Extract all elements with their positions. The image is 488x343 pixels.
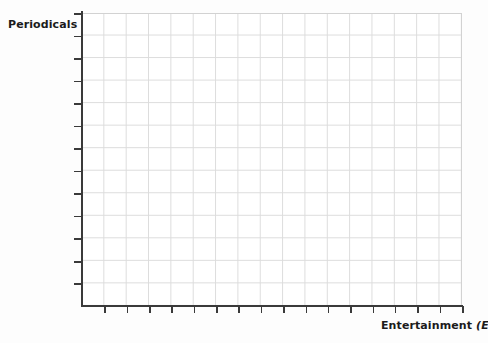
y-axis-tick: [74, 81, 82, 83]
x-axis-label-text: Entertainment: [381, 319, 472, 332]
y-axis-tick: [74, 36, 82, 38]
x-axis-tick: [127, 306, 129, 313]
y-axis-tick: [74, 13, 82, 15]
y-axis-tick: [74, 58, 82, 60]
x-axis-tick: [440, 306, 442, 313]
x-axis-tick: [261, 306, 263, 313]
y-axis-tick: [74, 261, 82, 263]
x-axis-label: Entertainment (E): [381, 320, 488, 331]
y-axis-spine: [81, 11, 83, 307]
x-axis-label-variable: (E): [476, 319, 488, 332]
x-axis-tick: [238, 306, 240, 313]
x-axis-tick: [462, 306, 464, 313]
x-axis-tick: [149, 306, 151, 313]
x-axis-tick: [350, 306, 352, 313]
graph-figure: Periodicals (P) Entertainment (E): [0, 0, 488, 343]
x-axis-tick: [216, 306, 218, 313]
y-axis-tick: [74, 148, 82, 150]
grid-border-right: [461, 13, 462, 306]
y-axis-tick: [74, 126, 82, 128]
y-axis-tick: [74, 193, 82, 195]
y-axis-tick: [74, 103, 82, 105]
x-axis-tick: [104, 306, 106, 313]
x-axis-tick: [283, 306, 285, 313]
x-axis-tick: [306, 306, 308, 313]
y-axis-tick: [74, 283, 82, 285]
x-axis-tick: [417, 306, 419, 313]
x-axis-tick: [328, 306, 330, 313]
grid-border-top: [82, 13, 462, 14]
grid-surface: [82, 13, 462, 306]
y-axis-label-text: Periodicals: [8, 18, 77, 31]
plot-area[interactable]: [82, 13, 462, 306]
x-axis-tick: [194, 306, 196, 313]
y-axis-tick: [74, 216, 82, 218]
x-axis-tick: [171, 306, 173, 313]
x-axis-spine: [81, 305, 463, 307]
y-axis-tick: [74, 238, 82, 240]
y-axis-tick: [74, 171, 82, 173]
x-axis-tick: [395, 306, 397, 313]
x-axis-tick: [373, 306, 375, 313]
